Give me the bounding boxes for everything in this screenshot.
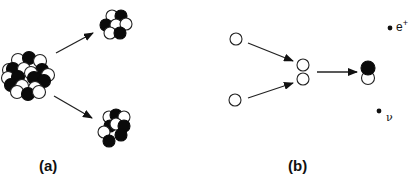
fusion-arrow-upper xyxy=(248,43,293,61)
fragment-nucleus-lower xyxy=(98,109,130,147)
panel-a: (a) xyxy=(2,10,133,174)
fission-arrow-upper xyxy=(56,33,93,53)
proton-pair xyxy=(297,59,309,85)
fusion-arrow-lower xyxy=(248,83,293,98)
positron: e+ xyxy=(388,18,408,34)
neutrino-dot xyxy=(377,109,382,114)
deuteron xyxy=(361,61,375,85)
fission-arrow-lower xyxy=(54,96,92,118)
panel-a-label: (a) xyxy=(39,157,57,174)
panel-b-label: (b) xyxy=(288,157,307,174)
fission-fusion-diagram: (a) e+ ν (b) xyxy=(0,0,417,184)
proton-incoming-upper xyxy=(230,33,242,45)
panel-b: e+ ν (b) xyxy=(229,18,408,174)
heavy-nucleus xyxy=(2,52,55,101)
fragment-nucleus-upper xyxy=(100,10,132,39)
proton-incoming-lower xyxy=(229,94,241,106)
neutrino-label: ν xyxy=(386,111,393,124)
neutrino: ν xyxy=(377,109,393,124)
positron-label: e+ xyxy=(396,18,408,34)
positron-dot xyxy=(388,26,393,31)
